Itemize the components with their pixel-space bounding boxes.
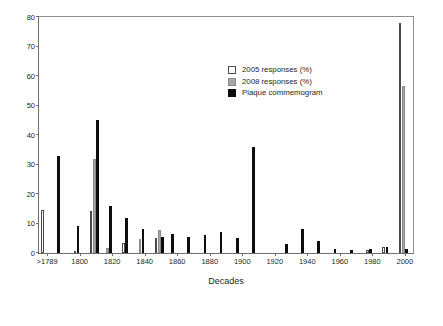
legend-swatch-icon <box>228 78 236 86</box>
bar <box>301 229 304 253</box>
bar <box>158 230 161 253</box>
x-tick-mark <box>275 253 276 256</box>
bar-group <box>380 17 396 253</box>
legend-item: 2005 responses (%) <box>228 66 323 74</box>
y-tick-label: 30 <box>27 161 39 169</box>
bar <box>334 249 337 253</box>
bar <box>161 237 164 253</box>
bar-group <box>39 17 55 253</box>
bar-group <box>299 17 315 253</box>
bar <box>236 238 239 253</box>
bars-layer <box>39 17 413 253</box>
bar-group <box>55 17 71 253</box>
x-tick-label: 1980 <box>364 258 381 266</box>
bar-group <box>315 17 331 253</box>
legend-swatch-icon <box>228 66 236 74</box>
bar-group <box>364 17 380 253</box>
legend-label: 2005 responses (%) <box>242 66 312 74</box>
y-axis-label-container: Percentage of responses <box>0 16 14 254</box>
y-tick-mark <box>36 105 39 106</box>
bar <box>96 120 99 253</box>
bar-group <box>250 17 266 253</box>
y-tick-mark <box>36 223 39 224</box>
bar-group <box>72 17 88 253</box>
legend-label: Plaque commemogram <box>242 89 323 97</box>
legend-swatch-icon <box>228 89 236 97</box>
y-tick-label: 60 <box>27 72 39 80</box>
bar-group <box>137 17 153 253</box>
x-tick-mark <box>80 253 81 256</box>
legend-item: 2008 responses (%) <box>228 78 323 86</box>
y-tick-mark <box>36 75 39 76</box>
bar <box>109 206 112 253</box>
bar-group <box>88 17 104 253</box>
x-tick-mark <box>372 253 373 256</box>
x-tick-label: 1860 <box>169 258 186 266</box>
y-tick-label: 20 <box>27 190 39 198</box>
bar <box>317 241 320 253</box>
x-tick-label: 1960 <box>331 258 348 266</box>
bar <box>252 147 255 253</box>
bar <box>142 229 145 253</box>
bar-group <box>169 17 185 253</box>
x-axis-label: Decades <box>38 276 414 286</box>
y-tick-mark <box>36 16 39 17</box>
bar <box>402 86 405 253</box>
x-tick-mark <box>242 253 243 256</box>
x-tick-mark <box>340 253 341 256</box>
bar-group <box>218 17 234 253</box>
y-tick-label: 0 <box>31 249 39 257</box>
bar-group <box>104 17 120 253</box>
y-tick-label: 80 <box>27 13 39 21</box>
legend-item: Plaque commemogram <box>228 89 323 97</box>
bar-group <box>202 17 218 253</box>
x-tick-label: 2000 <box>397 258 414 266</box>
bar <box>93 159 96 253</box>
bar-chart: Percentage of responses 0102030405060708… <box>0 0 443 326</box>
x-tick-label: 1840 <box>136 258 153 266</box>
bar-group <box>332 17 348 253</box>
x-tick-label: 1940 <box>299 258 316 266</box>
y-tick-label: 10 <box>27 220 39 228</box>
x-tick-mark <box>405 253 406 256</box>
chart-legend: 2005 responses (%)2008 responses (%)Plaq… <box>228 66 323 101</box>
plot-area: 01020304050607080 >178918001820184018601… <box>38 16 414 254</box>
x-tick-mark <box>47 253 48 256</box>
bar-group <box>267 17 283 253</box>
bar-group <box>120 17 136 253</box>
x-tick-label: 1800 <box>71 258 88 266</box>
x-tick-label: 1820 <box>104 258 121 266</box>
bar-group <box>185 17 201 253</box>
bar <box>41 210 44 253</box>
x-tick-mark <box>307 253 308 256</box>
bar <box>125 218 128 253</box>
bar <box>220 232 223 253</box>
bar-group <box>283 17 299 253</box>
x-tick-label: 1900 <box>234 258 251 266</box>
bar-group <box>348 17 364 253</box>
bar <box>386 247 389 253</box>
bar-group <box>234 17 250 253</box>
y-tick-mark <box>36 193 39 194</box>
x-tick-mark <box>210 253 211 256</box>
y-tick-mark <box>36 252 39 253</box>
bar-group <box>397 17 413 253</box>
bar <box>204 235 207 253</box>
bar <box>171 234 174 253</box>
x-tick-label: 1880 <box>201 258 218 266</box>
y-tick-mark <box>36 164 39 165</box>
y-tick-mark <box>36 46 39 47</box>
bar <box>285 244 288 253</box>
x-tick-mark <box>112 253 113 256</box>
y-tick-label: 40 <box>27 131 39 139</box>
x-tick-mark <box>145 253 146 256</box>
x-tick-label: >1789 <box>37 258 58 266</box>
bar <box>187 237 190 253</box>
bar <box>77 226 80 253</box>
x-tick-label: 1920 <box>266 258 283 266</box>
legend-label: 2008 responses (%) <box>242 78 312 86</box>
y-tick-label: 50 <box>27 102 39 110</box>
bar <box>57 156 60 253</box>
bar-group <box>153 17 169 253</box>
x-tick-mark <box>177 253 178 256</box>
